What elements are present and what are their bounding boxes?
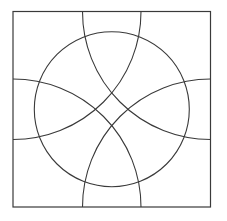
corner-arc-top-right [83,0,227,140]
corner-arc-bottom-left [0,79,141,221]
figure-canvas [0,0,226,221]
inscribed-circle [34,32,189,187]
outer-square [13,12,211,208]
corner-arc-bottom-right [83,79,227,221]
corner-arc-top-left [0,0,141,140]
geometric-figure [0,0,226,221]
